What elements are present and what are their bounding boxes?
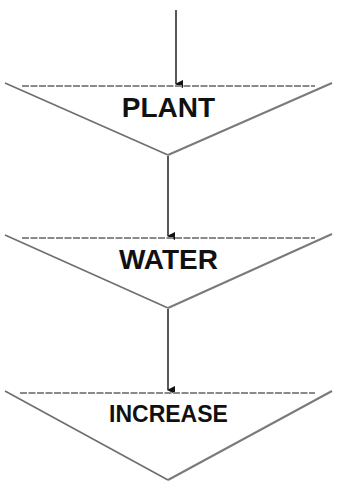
flowchart: PLANT WATER INCREASE (0, 0, 337, 487)
step-label-plant: PLANT (0, 94, 337, 122)
step-label-water: WATER (0, 246, 337, 274)
step-label-increase: INCREASE (0, 403, 337, 426)
